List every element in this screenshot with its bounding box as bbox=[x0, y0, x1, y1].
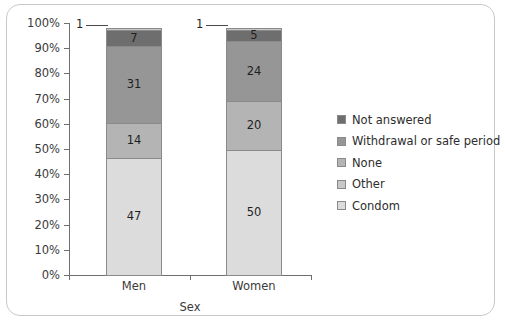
y-axis-tick-label: 90% bbox=[34, 41, 60, 55]
bar-segment[interactable]: 7 bbox=[106, 30, 162, 48]
bar-segment[interactable]: 31 bbox=[106, 46, 162, 124]
bar-segment-label: 47 bbox=[127, 211, 142, 223]
y-axis-tick bbox=[64, 23, 69, 24]
x-axis-tick bbox=[311, 275, 312, 280]
y-axis-tick bbox=[64, 99, 69, 100]
y-axis-tick-label: 80% bbox=[34, 66, 60, 80]
y-axis-tick bbox=[64, 174, 69, 175]
y-axis-tick-label: 100% bbox=[27, 16, 60, 30]
chart-figure: 0%10%20%30%40%50%60%70%80%90%100% 731144… bbox=[6, 4, 495, 316]
y-axis-tick bbox=[64, 149, 69, 150]
legend-item[interactable]: Other bbox=[337, 174, 487, 196]
y-axis-tick-label: 0% bbox=[42, 268, 60, 282]
bar-women[interactable]: 5242050 bbox=[226, 28, 282, 275]
y-axis-tick bbox=[64, 73, 69, 74]
bar-segment[interactable]: 24 bbox=[226, 41, 282, 101]
legend-item[interactable]: Not answered bbox=[337, 109, 487, 131]
chart-legend: Not answeredWithdrawal or safe periodNon… bbox=[337, 109, 487, 217]
bar-segment-label: 5 bbox=[250, 30, 257, 42]
legend-label: Withdrawal or safe period bbox=[352, 134, 500, 148]
bar-segment[interactable]: 14 bbox=[106, 123, 162, 158]
bar-segment-label: 14 bbox=[127, 135, 142, 147]
y-axis-tick-label: 60% bbox=[34, 117, 60, 131]
bar-segment-label: 31 bbox=[127, 79, 142, 91]
plot-area: 0%10%20%30%40%50%60%70%80%90%100% 731144… bbox=[69, 23, 311, 275]
y-axis-tick bbox=[64, 250, 69, 251]
bar-segment-label: 24 bbox=[247, 66, 262, 78]
x-axis-tick bbox=[69, 275, 70, 280]
x-axis-category-label: Women bbox=[226, 279, 282, 293]
legend-swatch bbox=[337, 180, 346, 189]
legend-swatch bbox=[337, 115, 346, 124]
bar-men[interactable]: 7311447 bbox=[106, 28, 162, 275]
legend-label: None bbox=[352, 156, 382, 170]
callout-leader-line bbox=[206, 25, 228, 26]
y-axis-tick-label: 40% bbox=[34, 167, 60, 181]
y-axis-tick bbox=[64, 199, 69, 200]
callout-value: 1 bbox=[76, 19, 83, 31]
legend-swatch bbox=[337, 158, 346, 167]
callout-other: 1 bbox=[76, 20, 108, 30]
callout-other: 1 bbox=[196, 20, 228, 30]
y-axis-tick-label: 30% bbox=[34, 192, 60, 206]
legend-label: Condom bbox=[352, 199, 400, 213]
legend-swatch bbox=[337, 201, 346, 210]
x-axis-category-label: Men bbox=[106, 279, 162, 293]
callout-value: 1 bbox=[196, 19, 203, 31]
y-axis-tick bbox=[64, 225, 69, 226]
bar-segment-label: 7 bbox=[130, 33, 137, 45]
legend-label: Not answered bbox=[352, 113, 431, 127]
y-axis-tick-label: 70% bbox=[34, 92, 60, 106]
bar-segment[interactable]: 20 bbox=[226, 101, 282, 151]
y-axis-tick bbox=[64, 48, 69, 49]
y-axis-tick-label: 10% bbox=[34, 243, 60, 257]
x-axis-title: Sex bbox=[69, 300, 311, 314]
y-axis-tick-label: 20% bbox=[34, 218, 60, 232]
legend-label: Other bbox=[352, 177, 385, 191]
x-axis-tick bbox=[190, 275, 191, 280]
y-axis-tick-label: 50% bbox=[34, 142, 60, 156]
bar-segment-label: 20 bbox=[247, 120, 262, 132]
legend-swatch bbox=[337, 137, 346, 146]
bar-segment[interactable]: 47 bbox=[106, 158, 162, 276]
callout-leader-line bbox=[86, 25, 108, 26]
legend-item[interactable]: Withdrawal or safe period bbox=[337, 131, 487, 153]
legend-item[interactable]: None bbox=[337, 152, 487, 174]
y-axis-tick bbox=[64, 124, 69, 125]
bar-segment[interactable]: 50 bbox=[226, 150, 282, 276]
legend-item[interactable]: Condom bbox=[337, 195, 487, 217]
bar-segment-label: 50 bbox=[247, 207, 262, 219]
y-axis-line bbox=[69, 23, 70, 275]
